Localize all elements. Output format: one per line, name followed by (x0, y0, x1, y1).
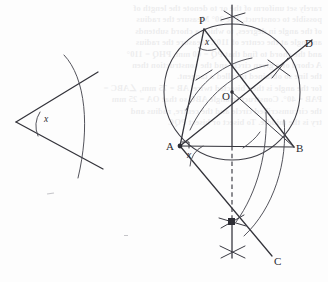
given-angle-upper-ray (16, 72, 98, 122)
angle-label-at-a: x (187, 150, 191, 160)
point-label-c: C (274, 255, 282, 267)
angle-label-left-x: x (44, 114, 48, 124)
given-angle-lower-ray (16, 122, 103, 169)
given-angle-construction-arc (64, 55, 85, 178)
given-angle-arc-mark (36, 112, 40, 136)
point-label-o: O (222, 90, 230, 102)
cross-tick-top (221, 11, 245, 23)
angle-label-at-p: x (205, 37, 209, 47)
point-o-dot (230, 90, 234, 94)
point-label-p: P (199, 14, 205, 26)
arc-about-b-outer (244, 120, 285, 236)
segment-ac (180, 146, 272, 256)
point-label-d: D (305, 37, 313, 49)
scan-speck (124, 235, 128, 236)
arc-about-b-inner (236, 112, 266, 222)
intersection-point-marker (228, 218, 235, 225)
segment-ad-through-centre (180, 40, 312, 146)
left-given-angle-group (16, 55, 103, 178)
figure-canvas: rarely set uniform of the or to denote t… (0, 0, 328, 282)
point-label-a: A (166, 140, 174, 152)
point-a-dot (178, 144, 183, 149)
geometry-figure: .ln { stroke:#33333a; stroke-width:1.25;… (0, 0, 328, 282)
segment-pb (204, 29, 294, 147)
arc-tick-above-chord (243, 132, 260, 148)
segment-ab (180, 146, 294, 147)
point-label-b: B (296, 142, 304, 154)
angle-arc-at-a (190, 146, 203, 166)
circle-construction-group (164, 5, 312, 258)
angle-arc-at-p (199, 48, 216, 50)
